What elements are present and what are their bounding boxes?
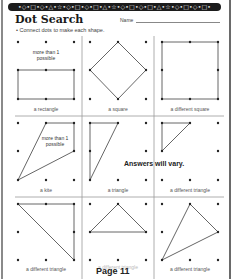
different-triangle-shape-4 [162,204,218,260]
cell-label-rectangle: a rectangle [10,106,82,112]
different-triangle-shape-2 [18,204,74,260]
cell-label-different-triangle-2: a different triangle [10,266,82,272]
cell-label-square: a square [82,106,154,112]
drawn-shapes [18,42,218,260]
answers-will-vary-note: Answers will vary. [124,160,184,167]
cell-label-different-triangle-4: a different triangle [154,266,226,272]
cell-label-kite: a kite [10,187,82,193]
page-number: Page 11 [96,266,130,276]
triangle-shape [90,123,118,180]
different-triangle-shape-1 [162,123,190,151]
kite-note: more than 1 possible [38,135,72,147]
grid-dividers [15,36,224,279]
kite-shape [18,123,74,180]
different-triangle-shape-3 [90,204,146,232]
dot-grid-worksheet [0,0,236,279]
cell-label-triangle: a triangle [82,187,154,193]
square-shape [90,42,146,99]
rectangle-note: more than 1 possible [28,49,64,61]
rectangle-shape [18,70,74,99]
cell-label-different-square: a different square [154,106,226,112]
cell-label-different-triangle-1: a different triangle [154,187,226,193]
grid-dots [17,41,219,261]
different-square-shape [162,42,218,99]
